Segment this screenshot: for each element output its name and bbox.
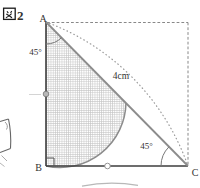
zu-kanji-glyph [4, 8, 16, 19]
vertex-a-label: A [39, 13, 47, 24]
figure-page: 2 A B C 45° 45° 4cm [0, 0, 200, 188]
figure-number: 2 [17, 8, 24, 23]
adjacent-figure-fragment-left [0, 119, 11, 167]
geometry-figure-2: 2 A B C 45° 45° 4cm [0, 0, 200, 188]
adjacent-figure-fragment-bottom [82, 183, 138, 186]
vertex-b-label: B [35, 162, 42, 173]
shaded-sector-region [46, 22, 126, 168]
vertex-c-label: C [192, 167, 199, 178]
angle-c-label: 45° [140, 141, 153, 151]
midpoint-marker-ab [43, 91, 49, 97]
midpoint-marker-bc [105, 163, 111, 169]
angle-a-label: 45° [29, 47, 42, 57]
angle-arc-c [161, 147, 169, 166]
arc-length-label: 4cm [113, 71, 130, 81]
